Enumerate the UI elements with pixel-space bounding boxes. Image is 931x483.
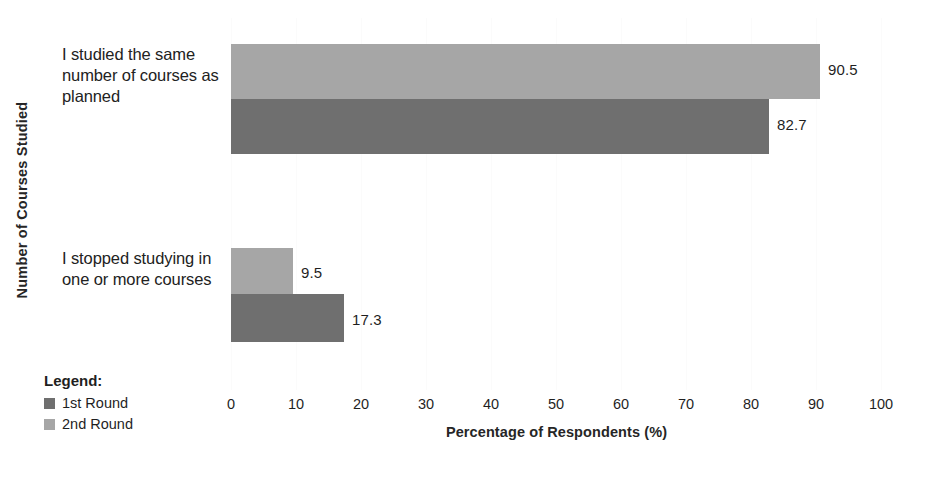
x-axis-title: Percentage of Respondents (%) — [231, 424, 882, 440]
plot-area: 90.5 82.7 9.5 17.3 — [231, 18, 882, 390]
legend-item-2nd-round[interactable]: 2nd Round — [44, 416, 219, 432]
legend-title: Legend: — [44, 372, 219, 389]
x-axis-ticks: 0 10 20 30 40 50 60 70 80 90 100 — [231, 396, 882, 418]
category-label-1: I stopped studying in one or more course… — [62, 248, 232, 290]
bar-group1-1st-round[interactable] — [231, 294, 344, 342]
y-axis-title: Number of Courses Studied — [0, 0, 44, 400]
bar-value-group0-1st-round: 82.7 — [777, 116, 807, 133]
gridline-100 — [881, 18, 882, 390]
bar-value-group1-2nd-round: 9.5 — [301, 264, 322, 281]
legend: Legend: 1st Round 2nd Round — [44, 372, 219, 437]
bar-chart-figure: Number of Courses Studied I studied the … — [0, 0, 931, 483]
legend-swatch-icon-2nd-round — [44, 419, 55, 430]
x-tick-80: 80 — [743, 396, 759, 412]
bar-group0-2nd-round[interactable] — [231, 44, 820, 99]
x-tick-30: 30 — [418, 396, 434, 412]
x-tick-90: 90 — [808, 396, 824, 412]
x-tick-60: 60 — [613, 396, 629, 412]
x-tick-70: 70 — [678, 396, 694, 412]
x-tick-10: 10 — [288, 396, 304, 412]
x-tick-40: 40 — [483, 396, 499, 412]
bar-value-group1-1st-round: 17.3 — [352, 311, 382, 328]
legend-label-1st-round: 1st Round — [62, 395, 128, 411]
y-axis-title-text: Number of Courses Studied — [14, 102, 30, 299]
bar-value-group0-2nd-round: 90.5 — [828, 61, 858, 78]
legend-item-1st-round[interactable]: 1st Round — [44, 395, 219, 411]
x-tick-50: 50 — [548, 396, 564, 412]
x-tick-20: 20 — [353, 396, 369, 412]
x-tick-100: 100 — [869, 396, 893, 412]
bar-group0-1st-round[interactable] — [231, 99, 769, 154]
bar-group1-2nd-round[interactable] — [231, 248, 293, 294]
legend-swatch-icon-1st-round — [44, 398, 55, 409]
x-tick-0: 0 — [227, 396, 235, 412]
legend-label-2nd-round: 2nd Round — [62, 416, 133, 432]
category-label-0: I studied the same number of courses as … — [62, 44, 232, 107]
